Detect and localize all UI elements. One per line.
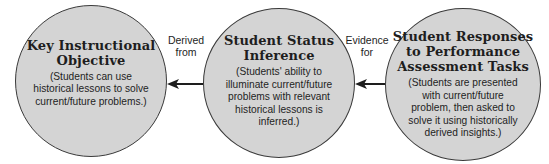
node-description-line: with current/future <box>408 90 517 103</box>
edge-label-line: Derived <box>156 34 216 46</box>
node-description-line: historical lessons is <box>226 104 332 117</box>
node-description: (Students can use historical lessons to … <box>33 71 149 109</box>
edge-label-line: for <box>337 46 397 58</box>
node-description-line: derived insights.) <box>408 127 517 140</box>
node-description-line: solve it using historically <box>408 115 517 128</box>
node-description-line: current/future problems.) <box>33 96 149 109</box>
arrow-evidence-for <box>355 79 385 89</box>
node-description: (Students' ability to illuminate current… <box>226 66 332 129</box>
node-title-line: Key Instructional <box>27 38 156 53</box>
node-title-line: Student Status <box>224 33 334 48</box>
node-description-line: problem, then asked to <box>408 102 517 115</box>
node-title-line: Inference <box>224 48 334 63</box>
node-description-line: problems with relevant <box>226 91 332 104</box>
diagram-canvas: Key Instructional Objective (Students ca… <box>0 0 549 164</box>
node-title: Student Responses to Performance Assessm… <box>393 29 533 74</box>
edge-label-line: Evidence <box>337 34 397 46</box>
arrow-derived-from <box>167 79 203 89</box>
node-student-status-inference: Student Status Inference (Students' abil… <box>203 8 355 158</box>
node-description-line: (Students' ability to <box>226 66 332 79</box>
node-description-line: (Students are presented <box>408 77 517 90</box>
node-title-line: to Performance <box>393 44 533 59</box>
node-student-responses: Student Responses to Performance Assessm… <box>385 8 541 161</box>
node-description-line: illuminate current/future <box>226 79 332 92</box>
node-description-line: (Students can use <box>33 71 149 84</box>
edge-label-derived-from: Derived from <box>156 34 216 58</box>
node-title-line: Objective <box>27 53 156 68</box>
node-description-line: inferred.) <box>226 116 332 129</box>
node-title-line: Assessment Tasks <box>393 59 533 74</box>
node-title-line: Student Responses <box>393 29 533 44</box>
node-key-instructional-objective: Key Instructional Objective (Students ca… <box>15 5 167 157</box>
node-description: (Students are presented with current/fut… <box>408 77 517 140</box>
edge-label-evidence-for: Evidence for <box>337 34 397 58</box>
node-title: Student Status Inference <box>224 33 334 63</box>
node-title: Key Instructional Objective <box>27 38 156 68</box>
node-description-line: historical lessons to solve <box>33 83 149 96</box>
